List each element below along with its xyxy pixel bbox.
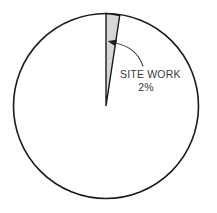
- pie-chart-svg: SITE WORK 2%: [0, 0, 217, 213]
- pie-chart-figure: SITE WORK 2%: [0, 0, 217, 213]
- callout-label: SITE WORK: [120, 68, 181, 80]
- callout-percent: 2%: [138, 81, 154, 93]
